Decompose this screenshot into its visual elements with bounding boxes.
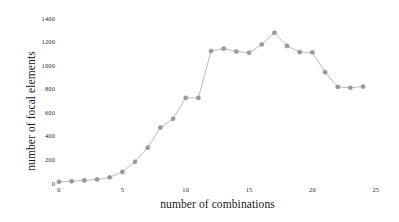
data-point (108, 175, 112, 179)
data-point (196, 96, 200, 100)
data-point (133, 160, 137, 164)
x-axis-title: number of combinations (59, 198, 376, 210)
series-line (59, 33, 363, 182)
data-point (95, 177, 99, 181)
data-point (184, 96, 188, 100)
data-point (260, 42, 264, 46)
data-point (234, 49, 238, 53)
data-point (285, 44, 289, 48)
series-line-chart (0, 0, 399, 222)
data-point (247, 51, 251, 55)
data-point (158, 126, 162, 130)
data-point (336, 85, 340, 89)
data-point (70, 179, 74, 183)
data-point (298, 50, 302, 54)
data-point (222, 47, 226, 51)
data-point (120, 170, 124, 174)
data-point (348, 86, 352, 90)
data-point (82, 178, 86, 182)
data-point (171, 117, 175, 121)
data-point (310, 50, 314, 54)
data-point (146, 146, 150, 150)
series-markers (57, 31, 365, 184)
data-point (323, 70, 327, 74)
data-point (57, 180, 61, 184)
chart-figure: number of focal elements 020040060080010… (0, 0, 399, 222)
plot-area (0, 0, 399, 222)
data-point (361, 84, 365, 88)
data-point (272, 31, 276, 35)
data-point (209, 49, 213, 53)
